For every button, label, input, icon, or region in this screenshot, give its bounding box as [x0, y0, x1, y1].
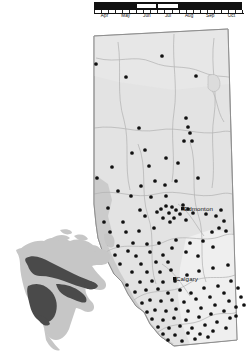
occurrence-point	[161, 332, 165, 336]
occurrence-point	[166, 291, 170, 295]
phenology-month-label-jul: Jul	[165, 13, 171, 18]
occurrence-point	[211, 245, 215, 249]
occurrence-point	[110, 165, 114, 169]
occurrence-point	[130, 151, 134, 155]
occurrence-point	[172, 316, 176, 320]
occurrence-point	[125, 283, 129, 287]
occurrence-point	[145, 310, 149, 314]
occurrence-point	[157, 241, 161, 245]
phenology-tick-major	[115, 10, 116, 14]
occurrence-point	[156, 287, 160, 291]
occurrence-point	[222, 309, 226, 313]
occurrence-point	[219, 208, 223, 212]
occurrence-point	[204, 212, 208, 216]
occurrence-point	[169, 268, 173, 272]
occurrence-point	[95, 176, 99, 180]
phenology-month-label-jun: Jun	[143, 13, 151, 18]
occurrence-point	[164, 309, 168, 313]
occurrence-point	[139, 184, 143, 188]
occurrence-point	[189, 291, 193, 295]
occurrence-point	[106, 206, 110, 210]
occurrence-point	[116, 244, 120, 248]
occurrence-point	[152, 226, 156, 230]
occurrence-point	[164, 194, 168, 198]
occurrence-point	[137, 126, 141, 130]
occurrence-point	[196, 176, 200, 180]
occurrence-point	[178, 212, 182, 216]
phenology-month-label-aug: Aug	[185, 13, 193, 18]
occurrence-point	[102, 220, 106, 224]
occurrence-point	[190, 139, 194, 143]
occurrence-point	[145, 242, 149, 246]
occurrence-point	[186, 125, 190, 129]
occurrence-point	[182, 300, 186, 304]
occurrence-point	[139, 262, 143, 266]
occurrence-point	[163, 183, 167, 187]
occurrence-point	[190, 326, 194, 330]
occurrence-point	[148, 298, 152, 302]
occurrence-point	[184, 250, 188, 254]
phenology-timeline: AprMayJunJulAugSepOct	[94, 0, 244, 22]
occurrence-point	[188, 131, 192, 135]
occurrence-point	[197, 315, 201, 319]
occurrence-point	[239, 295, 243, 299]
occurrence-point	[164, 156, 168, 160]
occurrence-point	[227, 299, 231, 303]
occurrence-point	[186, 331, 190, 335]
occurrence-point	[161, 216, 165, 220]
occurrence-point	[174, 307, 178, 311]
occurrence-point	[194, 74, 198, 78]
occurrence-point	[202, 286, 206, 290]
phenology-tick-major	[200, 10, 201, 14]
occurrence-point	[145, 270, 149, 274]
occurrence-point	[228, 316, 232, 320]
occurrence-point	[194, 297, 198, 301]
occurrence-point	[186, 309, 190, 313]
occurrence-point	[199, 306, 203, 310]
occurrence-point	[126, 249, 130, 253]
occurrence-point	[242, 303, 246, 307]
occurrence-point	[222, 291, 226, 295]
occurrence-point	[166, 338, 170, 342]
occurrence-point	[213, 303, 217, 307]
city-label-edmonton: Edmonton	[184, 205, 213, 212]
occurrence-point	[236, 286, 240, 290]
occurrence-point	[161, 318, 165, 322]
occurrence-point	[184, 318, 188, 322]
occurrence-point	[149, 195, 153, 199]
occurrence-point	[138, 208, 142, 212]
occurrence-point	[203, 323, 207, 327]
phenology-highlight-jun-jul	[136, 3, 157, 9]
occurrence-point	[211, 329, 215, 333]
phenology-tick-major	[136, 10, 137, 14]
occurrence-point	[178, 288, 182, 292]
occurrence-point	[215, 320, 219, 324]
occurrence-point	[174, 208, 178, 212]
occurrence-point	[124, 230, 128, 234]
occurrence-point	[131, 241, 135, 245]
occurrence-point	[222, 219, 226, 223]
occurrence-point	[158, 270, 162, 274]
phenology-highlight-jul-aug	[157, 3, 178, 9]
phenology-tick-major	[157, 10, 158, 14]
phenology-month-label-sep: Sep	[206, 13, 214, 18]
north-america-inset-map	[0, 228, 116, 354]
occurrence-point	[144, 288, 148, 292]
occurrence-point	[214, 214, 218, 218]
occurrence-point	[143, 148, 147, 152]
occurrence-point	[210, 230, 214, 234]
phenology-month-label-apr: Apr	[101, 13, 108, 18]
occurrence-point	[130, 270, 134, 274]
occurrence-point	[118, 262, 122, 266]
lake-athabasca	[208, 74, 220, 91]
occurrence-point	[159, 299, 163, 303]
phenology-tick-major	[221, 10, 222, 14]
occurrence-point	[161, 253, 165, 257]
occurrence-point	[224, 229, 228, 233]
occurrence-point	[137, 229, 141, 233]
occurrence-point	[224, 326, 228, 330]
phenology-tick-major	[179, 10, 180, 14]
occurrence-point	[94, 62, 98, 66]
occurrence-point	[206, 335, 210, 339]
occurrence-point	[176, 161, 180, 165]
